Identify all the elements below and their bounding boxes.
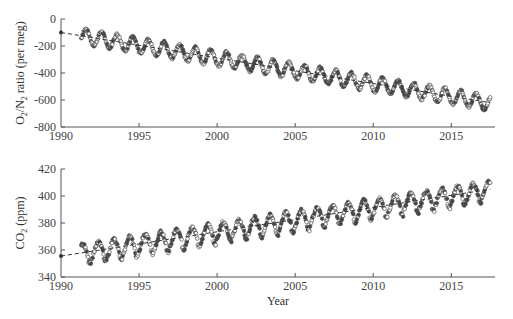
data-point — [138, 248, 142, 252]
x-tick-label: 2000 — [205, 279, 229, 293]
data-point — [258, 227, 262, 231]
data-point — [414, 202, 418, 206]
data-point — [460, 194, 464, 198]
x-tick-label: 2015 — [439, 129, 463, 143]
data-point — [273, 225, 277, 229]
data-point — [383, 79, 387, 83]
co2-data-points — [80, 179, 493, 265]
y-tick-label: 400 — [38, 189, 56, 203]
data-point — [225, 226, 229, 230]
data-point — [117, 250, 121, 254]
data-point — [329, 79, 333, 83]
x-tick-label: 1990 — [49, 279, 73, 293]
y-tick-label: -200 — [34, 39, 56, 53]
data-point — [386, 215, 390, 219]
data-point — [242, 229, 246, 233]
data-point — [488, 181, 492, 185]
data-point — [398, 204, 402, 208]
y-tick-label: 360 — [38, 243, 56, 257]
data-point — [476, 194, 480, 198]
data-point — [461, 197, 465, 201]
data-point — [295, 221, 299, 225]
data-point — [339, 79, 343, 83]
x-tick-label: 2010 — [361, 279, 385, 293]
data-point — [149, 243, 153, 247]
data-point — [131, 238, 135, 242]
data-point — [248, 228, 252, 232]
data-point — [433, 210, 437, 214]
data-point — [162, 233, 166, 237]
x-tick-label: 1995 — [127, 279, 151, 293]
data-point — [367, 210, 371, 214]
data-point — [123, 248, 127, 252]
co2-trend-line — [61, 189, 490, 256]
x-tick-label: 2005 — [283, 129, 307, 143]
data-point — [435, 201, 439, 205]
data-point — [430, 200, 434, 204]
data-point — [401, 215, 405, 219]
data-point — [255, 218, 259, 222]
data-point — [155, 243, 159, 247]
data-point — [336, 216, 340, 220]
data-point — [195, 237, 199, 241]
x-tick-label: 2015 — [439, 279, 463, 293]
data-point — [334, 206, 338, 210]
data-point — [86, 255, 90, 259]
x-axis-title: Year — [267, 294, 289, 308]
data-point — [180, 238, 184, 242]
data-point — [373, 211, 377, 215]
o2-n2-panel: 0-200-400-600-80019901995200020052010201… — [13, 12, 495, 143]
data-point — [323, 226, 327, 230]
y-tick-label: 420 — [38, 162, 56, 176]
x-tick-label: 1990 — [49, 129, 73, 143]
data-point — [308, 229, 312, 233]
data-point — [188, 230, 192, 234]
co2-panel: 420400380360340199019952000200520102015 … — [13, 162, 495, 308]
y-tick-label: -400 — [34, 66, 56, 80]
x-tick-label: 2005 — [283, 279, 307, 293]
data-point — [452, 194, 456, 198]
data-point — [102, 253, 106, 257]
data-point — [451, 199, 455, 203]
data-point — [406, 198, 410, 202]
data-point — [183, 248, 187, 252]
data-point — [211, 234, 215, 238]
x-tick-label: 2010 — [361, 129, 385, 143]
data-point — [357, 213, 361, 217]
data-point — [116, 242, 120, 246]
data-point — [352, 212, 356, 216]
y-tick-label: -600 — [34, 93, 56, 107]
data-point — [164, 241, 168, 245]
data-point — [381, 202, 385, 206]
data-point — [186, 237, 190, 241]
data-point — [281, 217, 285, 221]
data-point — [170, 242, 174, 246]
data-point — [214, 243, 218, 247]
data-point — [479, 201, 483, 205]
x-tick-label: 1995 — [127, 129, 151, 143]
data-point — [133, 246, 137, 250]
o2-n2-y-axis-title: O2/N2 ratio (per meg) — [13, 21, 29, 125]
data-point — [443, 191, 447, 195]
data-point — [448, 207, 452, 211]
data-point — [167, 249, 171, 253]
data-point — [466, 198, 470, 202]
data-point — [120, 258, 124, 262]
chart-figure: 0-200-400-600-80019901995200020052010201… — [0, 0, 513, 319]
data-point — [353, 76, 357, 80]
data-point — [395, 195, 399, 199]
data-point — [89, 262, 93, 266]
data-point — [445, 197, 449, 201]
data-point — [292, 230, 296, 234]
data-point — [276, 234, 280, 238]
data-point — [289, 221, 293, 225]
data-point — [417, 212, 421, 216]
data-point — [230, 241, 234, 245]
data-point — [324, 222, 328, 226]
data-point — [488, 96, 492, 100]
co2-y-axis-title: CO2 (ppm) — [13, 196, 29, 249]
data-point — [305, 220, 309, 224]
data-point — [403, 207, 407, 211]
x-tick-label: 2000 — [205, 129, 229, 143]
data-point — [383, 207, 387, 211]
